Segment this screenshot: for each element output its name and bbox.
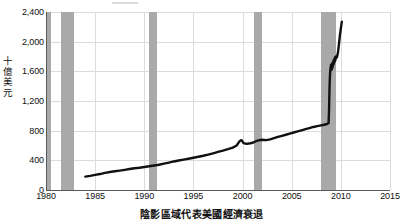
y-axis-title-char: 元: [1, 88, 15, 99]
x-axis-tick-label: 2015: [380, 191, 400, 201]
y-axis-tick-label: 2,400: [22, 7, 44, 17]
y-axis-tick-label: 800: [29, 126, 44, 136]
x-axis-tick-labels: 19801985199019952000200520102015: [0, 191, 404, 205]
x-axis-tick-label: 2005: [282, 191, 302, 201]
x-axis-tick-label: 1985: [85, 191, 105, 201]
data-series-line: [46, 12, 390, 190]
x-axis-tick-label: 1980: [36, 191, 56, 201]
chart-figure: 十億美元 04008001,2001,6002,0002,400 1980198…: [0, 0, 404, 224]
y-axis-tick-label: 1,200: [22, 96, 44, 106]
x-axis-tick-label: 1990: [134, 191, 154, 201]
y-axis-title: 十億美元: [1, 56, 15, 166]
legend-swatch: [112, 2, 138, 4]
y-axis-title-char: 十: [1, 56, 15, 67]
x-axis-tick-label: 2000: [233, 191, 253, 201]
y-axis-tick-label: 400: [29, 155, 44, 165]
legend: [112, 0, 232, 6]
y-axis-title-char: 美: [1, 77, 15, 88]
y-axis-line: [46, 12, 47, 191]
plot-area: [46, 12, 390, 190]
y-axis-tick-label: 1,600: [22, 66, 44, 76]
gridline-vertical: [390, 12, 391, 190]
chart-caption: 陰影區域代表美國經濟衰退: [0, 206, 404, 221]
y-axis-tick-label: 2,000: [22, 37, 44, 47]
x-axis-tick-label: 1995: [184, 191, 204, 201]
x-axis-tick-label: 2010: [331, 191, 351, 201]
